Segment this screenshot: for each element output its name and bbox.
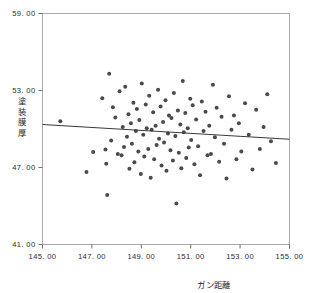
data-point — [129, 121, 133, 125]
data-point — [254, 108, 258, 112]
data-point — [104, 162, 108, 166]
data-point — [154, 124, 158, 128]
data-point — [157, 137, 161, 141]
data-point — [84, 170, 88, 174]
data-point — [127, 167, 131, 171]
data-point — [162, 140, 166, 144]
x-tick-label: 149. 00 — [127, 252, 155, 261]
data-point — [200, 99, 204, 103]
data-point — [184, 156, 188, 160]
data-point — [116, 152, 120, 156]
data-point — [151, 110, 155, 114]
data-point — [149, 176, 153, 180]
data-point — [156, 88, 160, 92]
x-tick-label: 153. 00 — [226, 252, 254, 261]
data-point — [265, 92, 269, 96]
data-point — [131, 101, 135, 105]
data-point — [130, 142, 134, 146]
data-point — [192, 162, 196, 166]
data-point — [206, 153, 210, 157]
data-point — [179, 166, 183, 170]
x-axis-title: ガン距離 — [197, 280, 231, 290]
y-axis-title: 塗装膜厚 — [18, 96, 27, 138]
data-point — [247, 133, 251, 137]
data-point — [146, 147, 150, 151]
data-point — [171, 158, 175, 162]
chart-canvas: 41. 0047. 0053. 0059. 00 145. 00147. 001… — [0, 0, 310, 293]
data-point — [202, 129, 206, 133]
data-point — [172, 91, 176, 95]
data-point — [120, 153, 124, 157]
x-tick-label: 147. 00 — [78, 252, 106, 261]
data-point — [152, 157, 156, 161]
data-point — [196, 144, 200, 148]
data-point — [144, 103, 148, 107]
data-point — [139, 172, 143, 176]
data-point — [222, 142, 226, 146]
data-point — [168, 148, 172, 152]
data-point — [176, 108, 180, 112]
data-point — [160, 164, 164, 168]
data-point — [220, 115, 224, 119]
data-point — [262, 125, 266, 129]
data-point — [183, 111, 187, 115]
x-tick-label: 151. 00 — [177, 252, 205, 261]
data-point — [232, 114, 236, 118]
data-point — [145, 126, 149, 130]
data-point — [237, 121, 241, 125]
y-axis-title-char: 装 — [18, 107, 27, 117]
data-point — [234, 157, 238, 161]
data-point — [109, 139, 113, 143]
data-point — [188, 97, 192, 101]
data-point — [211, 83, 215, 87]
data-point — [191, 103, 195, 107]
data-point — [209, 152, 213, 156]
data-point — [107, 72, 111, 76]
data-point — [113, 115, 117, 119]
y-axis-title-char: 厚 — [18, 128, 26, 138]
data-point — [136, 149, 140, 153]
data-point — [103, 148, 107, 152]
data-point — [189, 138, 193, 142]
data-point — [141, 133, 145, 137]
data-point — [250, 167, 254, 171]
x-tick-label: 145. 00 — [29, 252, 57, 261]
data-point — [174, 201, 178, 205]
data-point — [122, 145, 126, 149]
data-point — [274, 161, 278, 165]
data-point — [181, 79, 185, 83]
data-point — [164, 98, 168, 102]
data-point — [227, 94, 231, 98]
data-point — [213, 135, 217, 139]
data-point — [118, 89, 122, 93]
data-point — [177, 151, 181, 155]
data-point — [111, 105, 115, 109]
scatter-plot-figure: 41. 0047. 0053. 0059. 00 145. 00147. 001… — [0, 0, 310, 293]
y-tick-label: 53. 00 — [12, 86, 35, 95]
data-point — [258, 147, 262, 151]
data-point — [140, 81, 144, 85]
data-point — [135, 107, 139, 111]
data-point — [186, 126, 190, 130]
y-axis-title-char: 塗 — [18, 96, 27, 106]
data-point — [121, 125, 125, 129]
data-point — [204, 110, 208, 114]
y-axis-title-char: 膜 — [18, 117, 27, 127]
data-point — [173, 134, 177, 138]
x-tick-label: 155. 00 — [276, 252, 304, 261]
data-point — [159, 105, 163, 109]
data-point — [243, 101, 247, 105]
data-point — [91, 150, 95, 154]
data-point — [169, 116, 173, 120]
plot-area-frame — [43, 14, 290, 245]
data-point — [161, 120, 165, 124]
data-point — [132, 160, 136, 164]
data-point — [164, 169, 168, 173]
y-tick-label: 47. 00 — [12, 163, 35, 172]
data-point — [198, 173, 202, 177]
data-point — [207, 124, 211, 128]
data-point — [105, 193, 109, 197]
data-point — [142, 155, 146, 159]
data-point — [125, 135, 129, 139]
data-point — [155, 143, 159, 147]
